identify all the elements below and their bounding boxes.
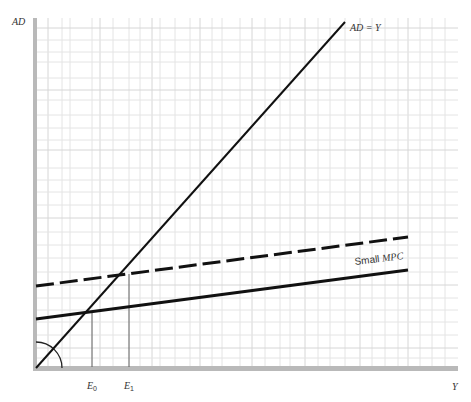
ad-equals-y-label: AD = Y <box>349 22 382 33</box>
e0-label: E0 <box>86 380 97 392</box>
background-grid <box>37 18 458 366</box>
y-axis-label: AD <box>11 16 26 27</box>
small-mpc-label: Small MPC <box>354 250 404 267</box>
e1-label: E1 <box>123 380 134 392</box>
keynesian-cross-diagram: AD Y AD = Y Small MPC E0 E1 <box>0 0 471 402</box>
y-axis <box>33 18 37 370</box>
x-axis-label: Y <box>452 381 459 392</box>
x-axis <box>33 366 458 371</box>
